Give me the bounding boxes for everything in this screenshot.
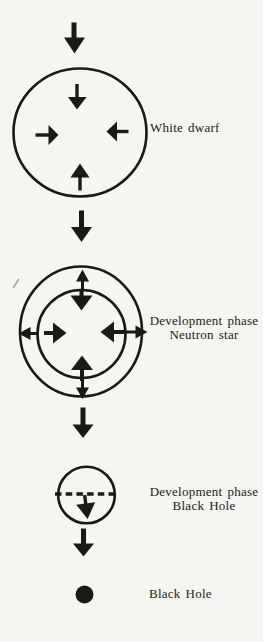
neutron-phase-label-line2: Neutron star (148, 328, 260, 342)
stray-scan-mark (14, 280, 19, 288)
collapse-arrow-1 (71, 211, 92, 243)
collapse-arrow-2 (73, 408, 94, 439)
neutron-star-stage (19, 267, 148, 400)
neutron-infall-arrow-top (71, 291, 93, 311)
label-black-hole: Black Hole (149, 587, 212, 601)
black-hole-phase-stage (55, 467, 119, 524)
white-dwarf-infall-arrow-bottom (71, 164, 90, 191)
white-dwarf-stage (14, 69, 147, 197)
white-dwarf-infall-arrow-top (68, 84, 87, 110)
neutron-infall-arrow-right (101, 322, 125, 343)
bh-phase-label-line2: Black Hole (148, 499, 260, 513)
neutron-outflow-arrow-right (126, 326, 148, 339)
collapse-arrow-3 (73, 529, 94, 557)
white-dwarf-infall-arrow-right (107, 122, 129, 142)
white-dwarf-infall-arrow-left (36, 125, 59, 145)
label-black-hole-phase: Development phase Black Hole (148, 485, 260, 513)
neutron-outflow-arrow-top (76, 270, 89, 291)
collapse-arrow-initial (64, 23, 85, 54)
black-hole-label-text: Black Hole (149, 586, 212, 601)
bh-phase-label-line1: Development phase (148, 485, 260, 499)
black-hole-dot (76, 586, 94, 604)
neutron-phase-label-line1: Development phase (148, 314, 260, 328)
label-white-dwarf: White dwarf (150, 121, 220, 135)
label-neutron-star-phase: Development phase Neutron star (148, 314, 260, 342)
black-hole-phase-infall-arrow (75, 494, 97, 520)
neutron-infall-arrow-left (44, 323, 67, 344)
white-dwarf-label-text: White dwarf (150, 120, 220, 135)
diagram-page: White dwarf Development phase Neutron st… (0, 0, 263, 642)
